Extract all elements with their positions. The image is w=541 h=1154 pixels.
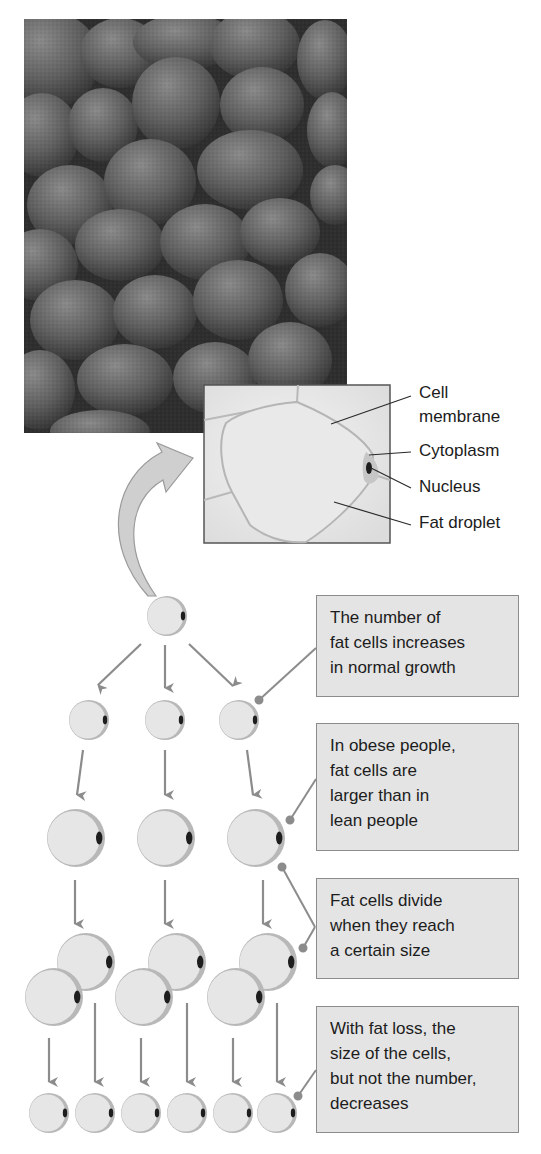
- callout-text: in normal growth: [330, 655, 518, 680]
- fat-cell-inset: [204, 385, 411, 554]
- label-cytoplasm: Cytoplasm: [419, 439, 499, 463]
- callout-text: decreases: [330, 1091, 518, 1116]
- callout-connectors: [256, 648, 317, 1100]
- callout-text: lean people: [330, 808, 518, 833]
- callout-text: The number of: [330, 605, 518, 630]
- callout-text: a certain size: [330, 938, 518, 963]
- callout-text: but not the number,: [330, 1066, 518, 1091]
- fat-cells: [25, 596, 297, 1133]
- callout-fat-loss: With fat loss, the size of the cells, bu…: [316, 1006, 519, 1133]
- callout-text: when they reach: [330, 913, 518, 938]
- label-cell-membrane-line1: Cell: [419, 381, 448, 405]
- callout-cells-divide: Fat cells divide when they reach a certa…: [316, 878, 519, 979]
- curved-arrow-icon: [118, 443, 193, 596]
- label-cell-membrane-line2: membrane: [419, 405, 500, 429]
- callout-obese-larger: In obese people, fat cells are larger th…: [316, 723, 519, 851]
- callout-text: size of the cells,: [330, 1041, 518, 1066]
- callout-text: larger than in: [330, 783, 518, 808]
- callout-normal-growth: The number of fat cells increases in nor…: [316, 595, 519, 697]
- fat-cell-growth-diagram: Cell membrane Cytoplasm Nucleus Fat drop…: [0, 0, 541, 1154]
- callout-text: fat cells are: [330, 758, 518, 783]
- callout-text: In obese people,: [330, 733, 518, 758]
- diagram-graphics: [0, 0, 541, 1154]
- label-nucleus: Nucleus: [419, 475, 480, 499]
- callout-text: Fat cells divide: [330, 888, 518, 913]
- callout-text: With fat loss, the: [330, 1016, 518, 1041]
- callout-text: fat cells increases: [330, 630, 518, 655]
- label-fat-droplet: Fat droplet: [419, 511, 500, 535]
